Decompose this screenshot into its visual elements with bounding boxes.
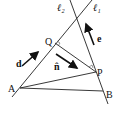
- geometry-diagram: ℓ₂ ℓ₁ Q P A B d e n̂: [0, 0, 122, 114]
- label-d: d: [16, 58, 22, 69]
- line-l1: [12, 0, 92, 97]
- line-l2: [70, 0, 108, 104]
- label-l1: ℓ₁: [93, 2, 101, 13]
- segment-AP: [20, 72, 96, 88]
- label-B: B: [106, 89, 113, 100]
- segment-AB: [20, 88, 103, 91]
- label-n-hat: n̂: [54, 61, 60, 72]
- label-P: P: [97, 67, 103, 78]
- label-A: A: [8, 83, 16, 94]
- label-Q: Q: [45, 36, 53, 47]
- vector-d-arrow: [22, 52, 38, 66]
- vector-e-arrow: [86, 24, 94, 45]
- label-e: e: [97, 33, 102, 44]
- label-l2: ℓ₂: [57, 2, 65, 13]
